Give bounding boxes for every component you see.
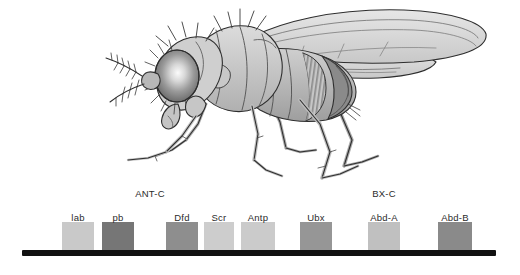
gene-label-ubx: Ubx [286, 212, 346, 223]
gene-label-antp: Antp [228, 212, 288, 223]
complex-label-bx-c: BX-C [344, 188, 424, 199]
gene-box-abd-a[interactable] [368, 222, 400, 250]
gene-box-scr[interactable] [204, 222, 234, 250]
gene-box-dfd[interactable] [166, 222, 198, 250]
gene-box-lab[interactable] [62, 222, 94, 250]
gene-label-abd-b: Abd-B [425, 212, 485, 223]
gene-label-abd-a: Abd-A [354, 212, 414, 223]
gene-box-abd-b[interactable] [438, 222, 472, 250]
hox-gene-figure: ANT-C BX-C lab pb Dfd Scr Antp Ubx Abd-A… [0, 0, 520, 275]
complex-label-ant-c: ANT-C [110, 188, 190, 199]
chromosome-line [22, 250, 496, 256]
hox-cluster-map: ANT-C BX-C lab pb Dfd Scr Antp Ubx Abd-A… [0, 0, 520, 275]
gene-box-antp[interactable] [241, 222, 275, 250]
gene-label-pb: pb [88, 212, 148, 223]
gene-box-pb[interactable] [102, 222, 134, 250]
gene-box-ubx[interactable] [300, 222, 332, 250]
